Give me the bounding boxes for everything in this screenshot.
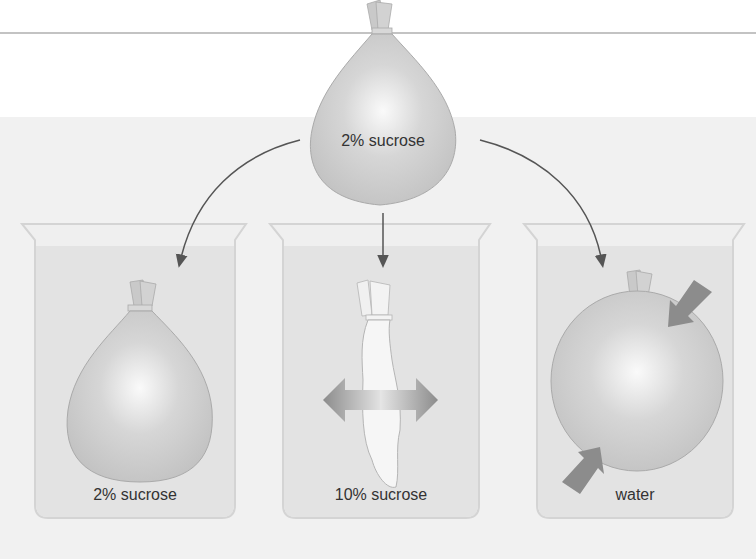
diagram-canvas	[0, 0, 756, 559]
top-bag-icon	[310, 0, 455, 205]
osmosis-diagram: 2% sucrose 2% sucrose 10% sucrose water	[0, 0, 756, 559]
beaker-hypotonic-label: water	[537, 486, 733, 504]
top-bag-label: 2% sucrose	[300, 132, 466, 150]
beaker-hypertonic-label: 10% sucrose	[283, 486, 479, 504]
beaker-isotonic-label: 2% sucrose	[35, 486, 235, 504]
